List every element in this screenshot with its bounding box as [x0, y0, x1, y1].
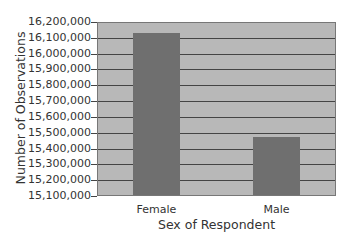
- plot-area: [97, 22, 336, 196]
- y-tick-label: 15,800,000: [28, 79, 91, 91]
- y-tick-label: 16,200,000: [28, 16, 91, 28]
- x-axis-title: Sex of Respondent: [97, 217, 336, 232]
- y-tick-label: 15,300,000: [28, 158, 91, 170]
- y-tick-label: 15,100,000: [28, 190, 91, 202]
- bar-female: [133, 33, 180, 195]
- y-tick-label: 15,600,000: [28, 111, 91, 123]
- y-tick-label: 16,100,000: [28, 32, 91, 44]
- y-tick: [91, 196, 97, 197]
- x-tick-label: Female: [117, 203, 197, 216]
- y-tick-label: 15,700,000: [28, 95, 91, 107]
- y-tick-label: 15,200,000: [28, 174, 91, 186]
- y-tick-label: 15,400,000: [28, 143, 91, 155]
- bar-chart: Number of Observations 15,100,00015,200,…: [0, 0, 353, 243]
- y-axis-title: Number of Observations: [13, 32, 28, 185]
- x-tick-label: Male: [237, 203, 317, 216]
- y-tick-label: 16,000,000: [28, 48, 91, 60]
- bar-male: [253, 137, 300, 195]
- y-tick-label: 15,900,000: [28, 63, 91, 75]
- y-tick-label: 15,500,000: [28, 127, 91, 139]
